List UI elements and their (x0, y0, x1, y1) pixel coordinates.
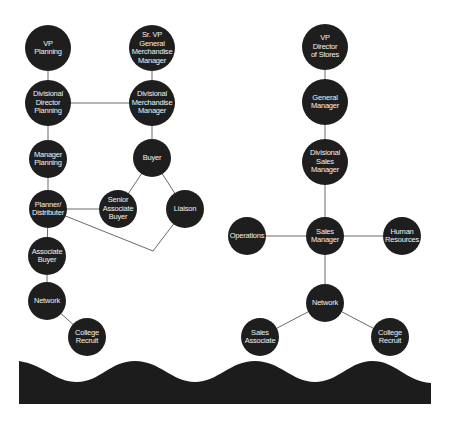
node-label: Planner/ Distributer (32, 201, 64, 218)
decorative-wave-banner (0, 0, 453, 421)
node-label: Human Resources (385, 228, 419, 245)
wave-shape (19, 361, 431, 404)
node-manager-planning: Manager Planning (29, 140, 67, 178)
node-sr-vp-gmm: Sr. VP General Merchandise Manager (129, 25, 175, 71)
node-vp-director-stores: VP Director of Stores (302, 24, 348, 70)
node-label: Senior Associate Buyer (103, 196, 134, 222)
node-label: Manager Planning (34, 151, 62, 168)
node-label: College Recruit (75, 329, 99, 346)
node-div-merch-manager: Divisional Merchandise Manager (129, 80, 175, 126)
node-human-resources: Human Resources (383, 217, 421, 255)
node-vp-planning: VP Planning (25, 25, 71, 71)
node-college-recruit-right: College Recruit (371, 318, 409, 356)
node-label: Network (312, 299, 338, 308)
node-div-director-planning: Divisional Director Planning (25, 80, 71, 126)
node-college-recruit-left: College Recruit (68, 318, 106, 356)
node-label: College Recruit (378, 329, 402, 346)
node-liaison: Liaison (166, 190, 204, 228)
node-network-left: Network (28, 282, 66, 320)
node-label: Sr. VP General Merchandise Manager (132, 31, 173, 65)
node-planner-distributer: Planner/ Distributer (29, 190, 67, 228)
node-label: Buyer (143, 154, 162, 163)
node-label: VP Director of Stores (311, 34, 339, 60)
node-label: Divisional Merchandise Manager (132, 90, 173, 116)
node-sales-associate: Sales Associate (241, 318, 279, 356)
node-label: Divisional Sales Manager (310, 149, 340, 175)
node-senior-associate-buyer: Senior Associate Buyer (99, 190, 137, 228)
node-buyer: Buyer (133, 139, 171, 177)
node-general-manager: General Manager (302, 79, 348, 125)
node-label: Associate Buyer (32, 248, 63, 265)
node-label: Network (34, 297, 60, 306)
node-label: VP Planning (34, 40, 62, 57)
node-label: Sales Manager (311, 228, 339, 245)
node-label: Divisional Director Planning (33, 90, 63, 116)
org-chart-diagram: VP PlanningSr. VP General Merchandise Ma… (0, 0, 453, 421)
node-label: General Manager (311, 94, 339, 111)
node-label: Operations (230, 232, 265, 241)
node-label: Sales Associate (245, 329, 276, 346)
node-div-sales-manager: Divisional Sales Manager (302, 139, 348, 185)
node-associate-buyer: Associate Buyer (28, 237, 66, 275)
node-operations: Operations (228, 217, 266, 255)
node-sales-manager: Sales Manager (306, 217, 344, 255)
node-network-right: Network (306, 284, 344, 322)
node-label: Liaison (174, 205, 196, 214)
